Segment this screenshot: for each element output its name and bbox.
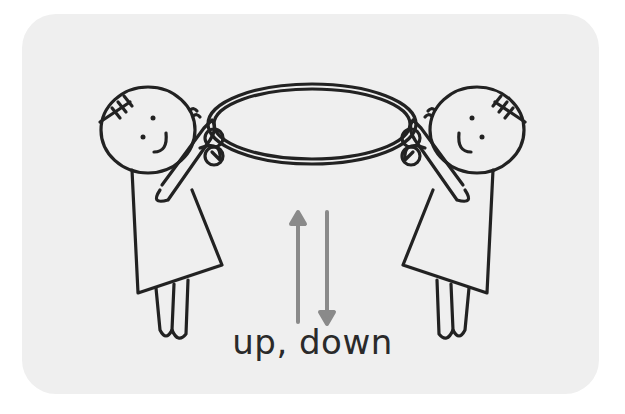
arrow-down-icon bbox=[320, 212, 334, 324]
right-child-figure bbox=[402, 87, 525, 338]
hoop-icon bbox=[208, 84, 416, 164]
left-child-figure bbox=[100, 87, 223, 338]
caption: up, down bbox=[0, 322, 625, 362]
arrow-up-icon bbox=[291, 212, 305, 322]
